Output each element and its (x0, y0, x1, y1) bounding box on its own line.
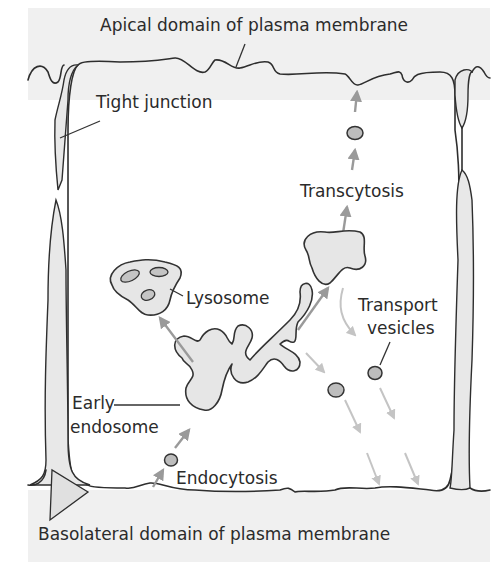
transport-vesicles-leader (380, 342, 390, 365)
transport-arrow (306, 353, 324, 372)
epithelial-cell-diagram: Apical domain of plasma membrane Tight j… (0, 0, 502, 572)
transport-arrow (380, 388, 394, 418)
endocytosis-label: Endocytosis (176, 468, 278, 488)
endocytic-vesicle (165, 454, 178, 466)
lysosome-inclusion (150, 268, 168, 277)
transcytosis-label: Transcytosis (299, 181, 404, 201)
tight-junction-label: Tight junction (95, 92, 212, 112)
transport-vesicles-label-line1: Transport (357, 295, 438, 315)
left-lateral-space-lower (30, 200, 90, 485)
recycling-compartment (304, 231, 365, 285)
transport-vesicle (328, 383, 344, 397)
transport-arrow (405, 453, 418, 484)
transcytosis-arrow-mid (352, 150, 355, 170)
endocytosis-arrow-upper (175, 430, 189, 448)
transcytosis-vesicle (347, 127, 363, 140)
early-endosome-label-line2: endosome (70, 417, 159, 437)
right-lateral-space-lower (450, 170, 474, 490)
transport-vesicle (368, 367, 382, 380)
early-endosome-label-line1: Early (72, 393, 115, 413)
basolateral-domain-label: Basolateral domain of plasma membrane (38, 524, 390, 544)
lysosome-label: Lysosome (186, 288, 270, 308)
transport-arrow (367, 453, 379, 484)
transport-vesicles-label-line2: vesicles (367, 318, 435, 338)
transport-curved-arrow (341, 288, 355, 335)
transport-arrow (345, 400, 360, 432)
apical-domain-label: Apical domain of plasma membrane (100, 15, 408, 35)
lysosome (110, 260, 181, 315)
